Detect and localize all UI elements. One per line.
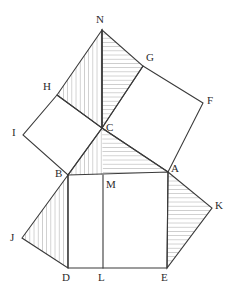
vertex-label-G: G [146,52,154,63]
vertex-label-J: J [10,232,14,243]
geometry-figure: N G H F I C B M A K J D L E [0,0,232,299]
square-BAED [68,172,168,268]
vertex-label-B: B [55,168,62,179]
geometry-canvas [0,0,232,299]
vertex-label-N: N [96,14,104,25]
vertex-label-D: D [62,272,70,283]
vertex-label-F: F [207,95,213,106]
triangle-BJD [22,175,68,268]
hatched-regions [22,30,212,268]
triangle-AKE [167,172,212,268]
vertex-label-K: K [215,200,223,211]
vertex-label-C: C [106,122,113,133]
vertex-label-E: E [161,272,168,283]
vertex-label-I: I [12,127,16,138]
triangle-NHC [57,30,102,128]
triangle-NCG [102,30,143,128]
vertex-label-A: A [171,163,179,174]
vertex-label-L: L [98,272,105,283]
vertex-label-M: M [106,179,116,190]
vertex-label-H: H [43,81,51,92]
